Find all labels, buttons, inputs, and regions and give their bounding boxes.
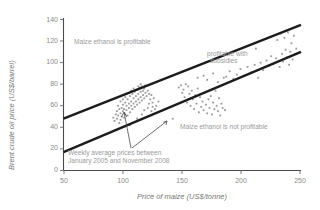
data-point [120,101,122,103]
x-tick-label-150: 150 [176,177,188,184]
data-point [158,101,160,103]
annotation-maize-ethanol-not-profitable: Maize ethanol is not profitable [180,123,268,131]
data-point [148,93,150,95]
data-point [184,96,186,98]
annotation-weekly-caption-line2: January 2005 and November 2008 [68,157,170,165]
data-point [134,106,136,108]
data-point [142,94,144,96]
data-point [124,96,126,98]
data-point [123,108,125,110]
data-point [131,108,133,110]
data-point [255,48,257,50]
data-point [215,90,217,92]
data-point [127,98,129,100]
data-point [112,117,114,119]
data-point [293,35,295,37]
data-point [212,73,214,75]
x-tick-label-50: 50 [60,177,68,184]
data-point [217,110,219,112]
data-point [295,48,297,50]
data-point [291,42,293,44]
data-point [186,102,188,104]
data-point [126,109,128,111]
data-point [222,107,224,109]
y-tick-label-140: 140 [46,16,58,23]
data-point [146,95,148,97]
data-point [129,95,131,97]
data-point [154,108,156,110]
data-point [190,105,192,107]
data-point [136,104,138,106]
data-point [120,119,122,121]
x-tick-label-250: 250 [294,177,306,184]
data-point [216,105,218,107]
data-point [120,112,122,114]
y-tick-label-20: 20 [50,144,58,151]
data-point [147,107,149,109]
data-point [181,92,183,94]
data-point [183,89,185,91]
x-tick-label-200: 200 [235,177,247,184]
data-point [121,107,123,109]
data-point [172,118,174,120]
data-point [224,109,226,111]
data-point [209,107,211,109]
data-point [133,97,135,99]
data-point [203,109,205,111]
data-point [185,83,187,85]
data-point [139,102,141,104]
data-point [219,115,221,117]
data-point [148,103,150,105]
data-point [289,51,291,53]
y-axis-title: Brent crude oil price (US$/barrel) [7,60,16,170]
data-point [197,77,199,79]
data-point [218,97,220,99]
y-tick-label-80: 80 [50,80,58,87]
data-point [135,95,137,97]
data-point [223,77,225,79]
data-point [133,88,135,90]
data-point [150,110,152,112]
lower-profitability-line [64,52,302,152]
data-point [145,92,147,94]
data-point [127,115,129,117]
data-point [200,106,202,108]
data-point [141,99,143,101]
y-tick-label-60: 60 [50,101,58,108]
data-point [281,53,283,55]
data-point [137,85,139,87]
data-point [128,103,130,105]
chart-figure: Brent crude oil price (US$/barrel) Price… [0,0,320,210]
data-point [205,104,207,106]
data-point [217,81,219,83]
data-point [240,68,242,70]
data-point [276,39,278,41]
data-point [122,104,124,106]
data-point [180,84,182,86]
data-point [199,96,201,98]
data-point [247,66,249,68]
data-point [279,66,281,68]
data-point [143,109,145,111]
data-point [118,122,120,124]
data-point [140,91,142,93]
data-point [133,103,135,105]
data-point [211,114,213,116]
data-point [131,93,133,95]
annotation-profitable-with-subsidies-line2: subsidies [210,57,238,64]
data-point [137,93,139,95]
data-point [140,96,142,98]
data-point [275,57,277,59]
data-point [178,87,180,89]
x-tick-label-100: 100 [117,177,129,184]
data-point [155,105,157,107]
data-point [196,103,198,105]
data-point [254,64,256,66]
data-point [126,105,128,107]
data-point [152,102,154,104]
data-point [270,55,272,57]
data-point [257,77,259,79]
data-point [135,101,137,103]
data-point [116,110,118,112]
data-point [193,108,195,110]
